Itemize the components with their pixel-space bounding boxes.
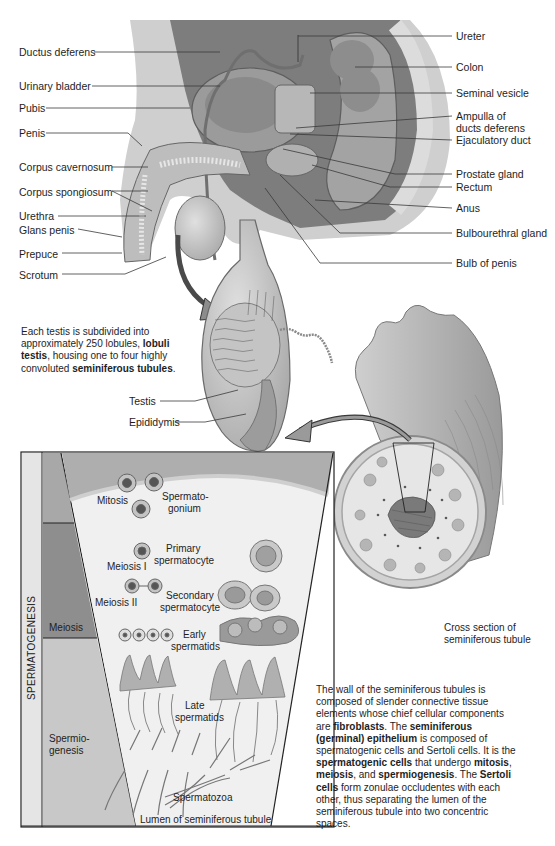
label-early-line2: spermatids [171, 641, 220, 653]
sagittal-section [120, 20, 450, 262]
label-primary-line1: Primary [166, 543, 200, 555]
label-ampulla-line2: ducts deferens [456, 122, 525, 134]
label-epididymis: Epididymis [129, 416, 180, 428]
label-secondary-line2: spermatocyte [160, 602, 220, 614]
label-glans-penis: Glans penis [19, 224, 74, 236]
label-ampulla-line1: Ampulla of [456, 110, 506, 122]
cross-section-label-line1: Cross section of [444, 622, 516, 634]
stage-meiosis: Meiosis [49, 622, 83, 634]
label-mitosis: Mitosis [97, 495, 128, 507]
label-corpus-cavernosum: Corpus cavernosum [19, 161, 113, 173]
label-late-line1: Late [185, 700, 204, 712]
label-spermatogonium-line2: gonium [168, 503, 201, 515]
label-primary-line2: spermatocyte [154, 555, 214, 567]
label-seminal-vesicle: Seminal vesicle [456, 87, 529, 99]
label-urethra: Urethra [19, 210, 54, 222]
label-bulbourethral-gland: Bulbourethral gland [456, 227, 547, 239]
label-penis: Penis [19, 127, 45, 139]
label-meiosis-i: Meiosis I [107, 561, 146, 573]
label-lumen: Lumen of seminiferous tubule [140, 814, 271, 826]
label-early-line1: Early [183, 629, 206, 641]
spermatogenesis-vertical-title: SPERMATOGENESIS [26, 596, 37, 700]
label-colon: Colon [456, 61, 483, 73]
testis-illustration [202, 220, 332, 451]
label-prepuce: Prepuce [19, 248, 58, 260]
cross-section-label-line2: seminiferous tubule [444, 634, 531, 646]
label-pubis: Pubis [19, 102, 45, 114]
label-ejaculatory-duct: Ejaculatory duct [456, 134, 531, 146]
label-corpus-spongiosum: Corpus spongiosum [19, 186, 112, 198]
label-late-line2: spermatids [175, 712, 224, 724]
label-urinary-bladder: Urinary bladder [19, 80, 91, 92]
seminiferous-tubule-illustration [334, 305, 503, 588]
label-anus: Anus [456, 202, 480, 214]
label-testis: Testis [129, 395, 156, 407]
label-meiosis-ii: Meiosis II [95, 597, 137, 609]
label-prostate-gland: Prostate gland [456, 168, 524, 180]
label-ductus-deferens: Ductus deferens [19, 46, 95, 58]
label-rectum: Rectum [456, 181, 492, 193]
seminiferous-wall-description: The wall of the seminiferous tubules is … [316, 684, 516, 830]
label-secondary-line1: Secondary [166, 590, 214, 602]
stage-spermiogenesis-line1: Spermio- [49, 733, 90, 745]
label-ureter: Ureter [456, 30, 485, 42]
label-spermatogonium-line1: Spermato- [162, 491, 209, 503]
label-spermatozoa: Spermatozoa [173, 792, 232, 804]
label-scrotum: Scrotum [19, 269, 58, 281]
stage-spermiogenesis-line2: genesis [49, 745, 83, 757]
testis-description: Each testis is subdivided into approxima… [21, 326, 201, 375]
label-bulb-of-penis: Bulb of penis [456, 257, 517, 269]
